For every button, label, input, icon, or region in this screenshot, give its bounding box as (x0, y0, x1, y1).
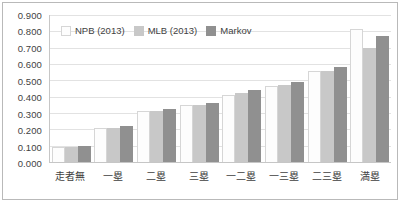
legend-item[interactable]: NPB (2013) (61, 25, 125, 36)
bar (120, 126, 133, 162)
bar-group (221, 15, 264, 162)
y-axis-tick-label: 0.800 (18, 26, 42, 37)
bar (180, 105, 193, 162)
x-axis: 走者無一塁二塁三塁一二塁一三塁二三塁満塁 (49, 165, 391, 189)
bar-group (50, 15, 93, 162)
bar (248, 90, 261, 162)
bar (150, 111, 163, 162)
y-axis-tick-label: 0.900 (18, 10, 42, 21)
bar (206, 103, 219, 162)
bar-group (348, 15, 391, 162)
bars-layer (50, 15, 391, 162)
bar (291, 82, 304, 162)
bar (107, 128, 120, 162)
bar-group (306, 15, 349, 162)
bar (78, 146, 91, 162)
bar-group (178, 15, 221, 162)
bar (376, 36, 389, 162)
bar (222, 95, 235, 162)
bar-group (263, 15, 306, 162)
y-axis-tick-label: 0.300 (18, 108, 42, 119)
bar (363, 48, 376, 162)
x-axis-tick-label: 一塁 (92, 165, 135, 189)
legend-swatch-markov (206, 26, 216, 36)
bar (137, 111, 150, 162)
plot-area (49, 15, 391, 163)
bar (321, 71, 334, 162)
bar (308, 71, 321, 162)
y-axis-tick-label: 0.500 (18, 75, 42, 86)
bar (334, 67, 347, 162)
x-axis-tick-label: 走者無 (49, 165, 92, 189)
legend-item-label: MLB (2013) (148, 25, 198, 36)
y-axis: 0.9000.8000.7000.6000.5000.4000.3000.200… (3, 15, 47, 163)
chart-frame: 0.9000.8000.7000.6000.5000.4000.3000.200… (2, 2, 398, 200)
bar-group (135, 15, 178, 162)
x-axis-tick-label: 満塁 (348, 165, 391, 189)
bar (265, 86, 278, 162)
legend-item[interactable]: MLB (2013) (134, 25, 198, 36)
bar (278, 85, 291, 162)
legend-item-label: NPB (2013) (75, 25, 125, 36)
legend-item[interactable]: Markov (206, 25, 251, 36)
y-axis-tick-label: 0.000 (18, 158, 42, 169)
x-axis-tick-label: 二三塁 (306, 165, 349, 189)
bar (193, 105, 206, 162)
y-axis-tick-label: 0.200 (18, 125, 42, 136)
bar (94, 128, 107, 162)
bar (52, 147, 65, 162)
x-axis-tick-label: 一三塁 (263, 165, 306, 189)
bar (65, 147, 78, 162)
legend-item-label: Markov (220, 25, 251, 36)
x-axis-tick-label: 三塁 (177, 165, 220, 189)
bar (350, 29, 363, 162)
bar-group (93, 15, 136, 162)
y-axis-tick-label: 0.100 (18, 141, 42, 152)
y-axis-tick-label: 0.700 (18, 42, 42, 53)
x-axis-tick-label: 二塁 (135, 165, 178, 189)
x-axis-tick-label: 一二塁 (220, 165, 263, 189)
bar (163, 109, 176, 162)
y-axis-tick-label: 0.600 (18, 59, 42, 70)
bar (235, 93, 248, 162)
chart-container: 0.9000.8000.7000.6000.5000.4000.3000.200… (0, 0, 400, 202)
legend-swatch-npb (61, 26, 71, 36)
y-axis-tick-label: 0.400 (18, 92, 42, 103)
legend-swatch-mlb (134, 26, 144, 36)
chart-legend: NPB (2013)MLB (2013)Markov (61, 25, 251, 36)
